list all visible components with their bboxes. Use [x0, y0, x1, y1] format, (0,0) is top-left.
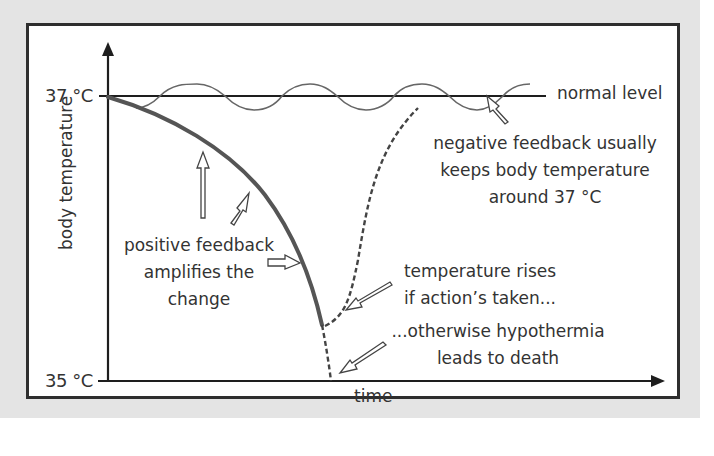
annotation-line: negative feedback usually — [425, 130, 665, 157]
annotation-line: ...otherwise hypothermia — [384, 318, 612, 345]
temperature-rises-annotation: temperature rises if action’s taken... — [390, 258, 570, 312]
normal-level-label: normal level — [557, 80, 662, 107]
annotation-line: around 37 °C — [425, 184, 665, 211]
x-axis-arrow-icon — [651, 375, 665, 387]
arrow-up-right-icon — [231, 193, 249, 225]
y-axis-label: body temperature — [56, 96, 76, 250]
y-tick-35: 35 °C — [45, 367, 93, 394]
annotation-line: leads to death — [384, 345, 612, 372]
x-axis-label: time — [354, 383, 392, 410]
annotation-line: positive feedback — [114, 232, 284, 259]
annotation-line: temperature rises — [390, 258, 570, 285]
annotation-line: amplifies the — [114, 259, 284, 286]
annotation-line: keeps body temperature — [425, 157, 665, 184]
annotation-line: if action’s taken... — [390, 285, 570, 312]
y-axis — [99, 42, 114, 382]
arrow-down-left-icon — [340, 342, 386, 373]
y-axis-arrow-icon — [102, 42, 114, 56]
negative-feedback-annotation: negative feedback usually keeps body tem… — [425, 130, 665, 211]
annotation-line: change — [114, 286, 284, 313]
hypothermia-dashed-curve — [322, 325, 331, 381]
arrow-up-icon — [197, 152, 209, 218]
hypothermia-annotation: ...otherwise hypothermia leads to death — [384, 318, 612, 372]
positive-feedback-annotation: positive feedback amplifies the change — [114, 232, 284, 313]
